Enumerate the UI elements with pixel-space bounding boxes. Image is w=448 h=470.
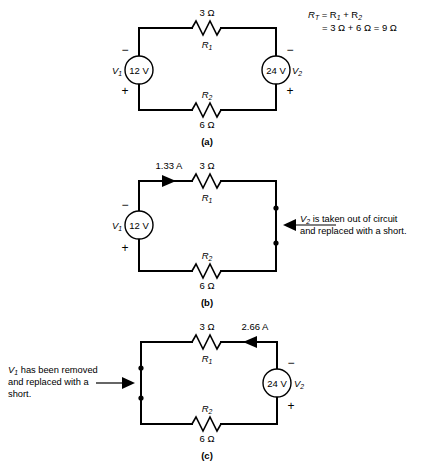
circuit-diagram-svg: 3 Ω R1 R2 6 Ω 12 V V1 − + 24 V V2 − + RT… xyxy=(0,0,448,470)
panel-b: 1.33 A 3 Ω R1 R2 6 Ω 12 V V1 − + xyxy=(112,160,407,308)
panel-c-annotation-line2: and replaced with a xyxy=(8,377,89,387)
panel-b-v1-minus-sign: − xyxy=(121,198,128,212)
panel-c-annotation-line3: short. xyxy=(8,389,31,399)
panel-a-v2-plus-sign: + xyxy=(286,84,293,98)
panel-b-r1-label: R1 xyxy=(202,192,213,204)
panel-c-current-arrow-icon xyxy=(243,336,257,348)
panel-b-r2-label: R2 xyxy=(202,250,213,262)
panel-a-r2-value: 6 Ω xyxy=(199,119,214,130)
panel-b-caption: (b) xyxy=(201,297,213,308)
panel-a-v1-minus-sign: − xyxy=(121,43,128,57)
panel-c-v2-value: 24 V xyxy=(267,378,287,389)
panel-b-short-node-top xyxy=(273,205,278,210)
panel-c-r2-label: R2 xyxy=(202,403,213,415)
panel-b-v1-plus-sign: + xyxy=(121,241,128,255)
panel-a-v2-name: V2 xyxy=(292,65,302,77)
panel-a: 3 Ω R1 R2 6 Ω 12 V V1 − + 24 V V2 − + RT… xyxy=(112,7,397,147)
panel-b-current-arrow-icon xyxy=(162,175,176,187)
panel-c-r2-zigzag xyxy=(192,417,221,431)
panel-b-r1-value: 3 Ω xyxy=(199,160,214,171)
panel-b-v1-name: V1 xyxy=(112,220,122,232)
panel-b-r2-zigzag xyxy=(192,264,221,278)
panel-a-r2-zigzag xyxy=(192,103,221,117)
panel-c-r2-value: 6 Ω xyxy=(199,433,214,444)
panel-c-v2-name: V2 xyxy=(294,378,304,390)
panel-c-short-node-bottom xyxy=(138,395,143,400)
panel-c-v2-minus-sign: − xyxy=(287,356,294,370)
circuit-figure: 3 Ω R1 R2 6 Ω 12 V V1 − + 24 V V2 − + RT… xyxy=(0,0,448,470)
panel-a-v1-value: 12 V xyxy=(129,65,149,76)
panel-c-annotation-line1: V1 has been removed xyxy=(8,364,98,376)
panel-a-r1-value: 3 Ω xyxy=(199,7,214,18)
panel-a-v1-name: V1 xyxy=(112,65,122,77)
panel-a-v2-minus-sign: − xyxy=(286,43,293,57)
panel-c-annotation-arrow-icon xyxy=(122,377,135,389)
panel-c: 2.66 A 3 Ω R1 R2 6 Ω 24 V V2 − + xyxy=(8,321,304,461)
panel-b-v1-value: 12 V xyxy=(129,220,149,231)
panel-a-r1-label: R1 xyxy=(202,39,213,51)
panel-b-annotation-line2: and replaced with a short. xyxy=(300,226,406,236)
panel-b-short-node-bottom xyxy=(273,240,278,245)
panel-b-annotation-line1: V2 is taken out of circuit xyxy=(300,213,398,225)
panel-c-r1-zigzag xyxy=(192,335,221,349)
panel-a-equation-line2: = 3 Ω + 6 Ω = 9 Ω xyxy=(322,22,397,33)
panel-a-equation-line1: RT = R1 + R2 xyxy=(308,9,362,21)
panel-b-r2-value: 6 Ω xyxy=(199,280,214,291)
panel-c-r1-label: R1 xyxy=(202,353,213,365)
panel-c-r1-value: 3 Ω xyxy=(199,321,214,332)
panel-b-current-label: 1.33 A xyxy=(156,160,184,171)
panel-c-v2-plus-sign: + xyxy=(287,399,294,413)
panel-b-r1-zigzag xyxy=(192,174,221,188)
panel-b-annotation-arrow-icon xyxy=(283,219,296,231)
panel-c-current-label: 2.66 A xyxy=(242,321,270,332)
panel-c-caption: (c) xyxy=(201,450,213,461)
panel-a-v1-plus-sign: + xyxy=(121,84,128,98)
panel-a-r1-zigzag xyxy=(192,21,221,35)
panel-a-caption: (a) xyxy=(201,136,213,147)
panel-a-v2-value: 24 V xyxy=(266,65,286,76)
panel-c-short-node-top xyxy=(138,365,143,370)
panel-a-r2-label: R2 xyxy=(202,89,213,101)
